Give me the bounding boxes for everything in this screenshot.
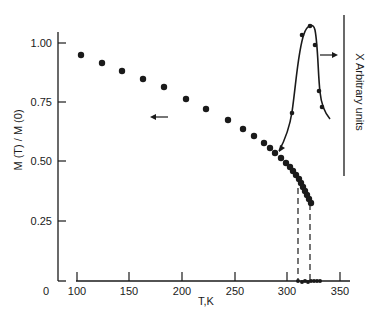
y-tick-label: 1.00	[31, 37, 52, 49]
data-point	[161, 84, 167, 90]
x-tick-label-zero: 0	[43, 285, 49, 297]
data-point	[203, 106, 209, 112]
data-point	[119, 68, 125, 74]
x-tick-label: 100	[68, 285, 86, 297]
data-point	[272, 150, 278, 156]
data-point	[99, 60, 105, 66]
data-point	[261, 140, 267, 146]
curve-marker	[317, 89, 322, 94]
x-tick-label: 350	[331, 285, 349, 297]
x-tick-label: 200	[173, 285, 191, 297]
x-axis-label: T,K	[198, 295, 215, 307]
y-tick-label: 0.50	[31, 155, 52, 167]
y-axis-label: M (T) / M (0)	[12, 109, 24, 170]
curve-marker	[313, 43, 318, 48]
tick-labels: 1.000.750.500.251001502002503003500	[31, 37, 350, 297]
x-tick-label: 250	[226, 285, 244, 297]
data-point	[308, 200, 314, 206]
susceptibility-curve	[279, 25, 330, 151]
curve-marker	[320, 105, 325, 110]
right-arrow-icon	[332, 52, 338, 58]
data-point	[225, 117, 231, 123]
axis-ticks	[58, 43, 340, 281]
data-point	[251, 133, 257, 139]
annotation-arrows	[150, 52, 338, 152]
curve-marker	[300, 33, 305, 38]
curve-marker	[308, 24, 313, 29]
baseline-dot	[318, 279, 322, 283]
left-arrow-icon	[150, 114, 156, 120]
x-tick-label: 300	[278, 285, 296, 297]
baseline-dot	[296, 279, 300, 283]
curve-marker	[290, 111, 295, 116]
x-tick-label: 150	[120, 285, 138, 297]
susceptibility-series	[279, 24, 330, 151]
data-point	[278, 155, 284, 161]
chart-container: 1.000.750.500.251001502002503003500 T,K …	[0, 0, 370, 324]
y-tick-label: 0.25	[31, 215, 52, 227]
y-tick-label: 0.75	[31, 96, 52, 108]
data-point	[240, 126, 246, 132]
magnetization-series	[78, 52, 314, 206]
data-point	[140, 76, 146, 82]
data-point	[267, 145, 273, 151]
chart-svg: 1.000.750.500.251001502002503003500 T,K …	[0, 0, 370, 324]
axes	[58, 15, 350, 281]
data-point	[78, 52, 84, 58]
right-axis-label: X Arbitrary units	[354, 53, 366, 131]
data-point	[183, 96, 189, 102]
